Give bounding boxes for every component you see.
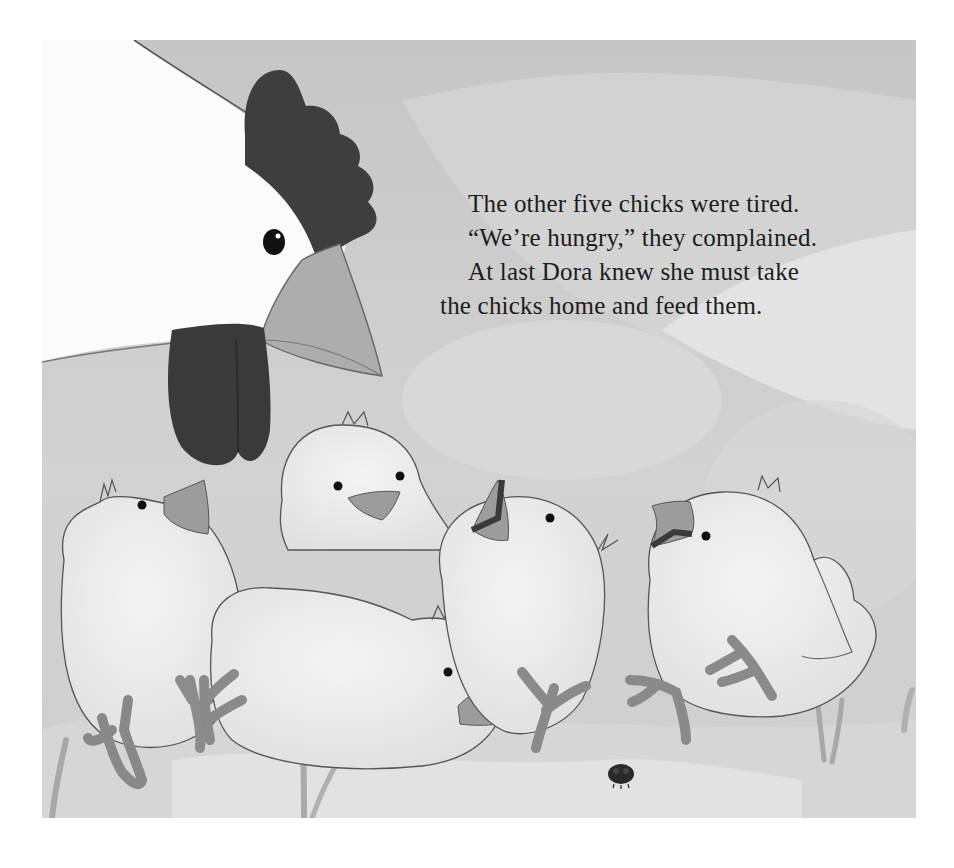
illustration: [42, 40, 916, 818]
story-line-4: the chicks home and feed them.: [440, 289, 910, 323]
story-line-1: The other five chicks were tired.: [440, 187, 910, 221]
story-line-3: At last Dora knew she must take: [440, 255, 910, 289]
hen-eye: [263, 229, 285, 255]
book-page: The other five chicks were tired. “We’re…: [0, 0, 954, 868]
story-text: The other five chicks were tired. “We’re…: [440, 187, 910, 323]
wattle: [168, 324, 271, 465]
story-line-2: “We’re hungry,” they complained.: [440, 221, 910, 255]
